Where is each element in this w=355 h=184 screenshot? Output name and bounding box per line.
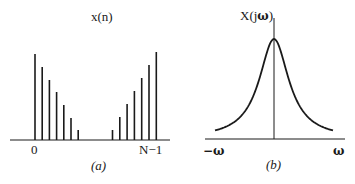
panel-b-title-suffix: ) bbox=[269, 8, 273, 23]
omega-symbol: ω bbox=[257, 9, 268, 23]
panel-a-caption: (a) bbox=[91, 158, 106, 174]
panel-b-tick-neg-omega: −ω bbox=[203, 144, 224, 158]
panel-a-title: x(n) bbox=[91, 9, 113, 25]
left-stem-group bbox=[35, 54, 78, 140]
panel-b-caption: (b) bbox=[266, 157, 281, 173]
panel-b-tick-pos-omega: ω bbox=[333, 144, 344, 158]
right-stem-group bbox=[113, 52, 157, 140]
panel-a-plot bbox=[10, 52, 170, 140]
panel-b-title: X(jω) bbox=[240, 8, 273, 24]
panel-b-plot bbox=[205, 18, 345, 139]
panel-a-tick-zero: 0 bbox=[31, 142, 38, 158]
figure-canvas bbox=[0, 0, 355, 184]
panel-b-title-prefix: X(j bbox=[240, 8, 257, 23]
panel-a-tick-n-minus-1: N−1 bbox=[139, 142, 162, 158]
